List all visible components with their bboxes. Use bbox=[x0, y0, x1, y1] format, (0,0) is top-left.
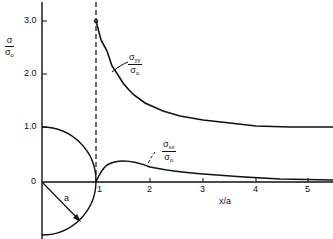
sigma-xx-label: σxx σo bbox=[162, 140, 176, 163]
y-axis-label: σ σo bbox=[5, 36, 14, 58]
radius-label: a bbox=[64, 194, 69, 203]
sigma-xx-den-sub: o bbox=[170, 157, 173, 163]
x-tick-label-4: 4 bbox=[253, 185, 258, 194]
sigma-yy-label: σyy σo bbox=[128, 53, 142, 76]
sigma-xx-curve bbox=[96, 161, 333, 182]
x-tick-label-2: 2 bbox=[147, 185, 152, 194]
stress-concentration-chart bbox=[0, 0, 333, 239]
sigma-xx-num-sub: xx bbox=[169, 144, 175, 150]
sigma-yy-numerator: σyy bbox=[128, 53, 142, 65]
sigma-yy-num-sub: yy bbox=[135, 57, 141, 63]
y-axis-label-numerator: σ bbox=[5, 36, 14, 47]
y-tick-label-1: 1.0 bbox=[24, 122, 37, 131]
radius-arrow bbox=[42, 182, 79, 220]
sigma-yy-den-sub: o bbox=[136, 70, 139, 76]
y-tick-label-2: 2.0 bbox=[24, 69, 37, 78]
y-tick-label-0: 0 bbox=[31, 177, 36, 186]
sigma-xx-leader bbox=[148, 152, 155, 164]
sigma-yy-denominator: σo bbox=[128, 65, 142, 76]
y-tick-label-3: 3.0 bbox=[24, 16, 37, 25]
y-axis-label-denominator: σo bbox=[5, 47, 14, 58]
sigma-xx-denominator: σo bbox=[162, 152, 176, 163]
x-tick-label-3: 3 bbox=[200, 185, 205, 194]
hole-boundary-arc bbox=[42, 127, 96, 235]
y-axis-den-sub: o bbox=[11, 52, 14, 58]
x-tick-label-1: 1 bbox=[97, 185, 102, 194]
x-axis-label: x/a bbox=[219, 197, 231, 206]
x-tick-label-5: 5 bbox=[305, 185, 310, 194]
sigma-yy-leader bbox=[112, 62, 128, 72]
sigma-xx-numerator: σxx bbox=[162, 140, 176, 152]
